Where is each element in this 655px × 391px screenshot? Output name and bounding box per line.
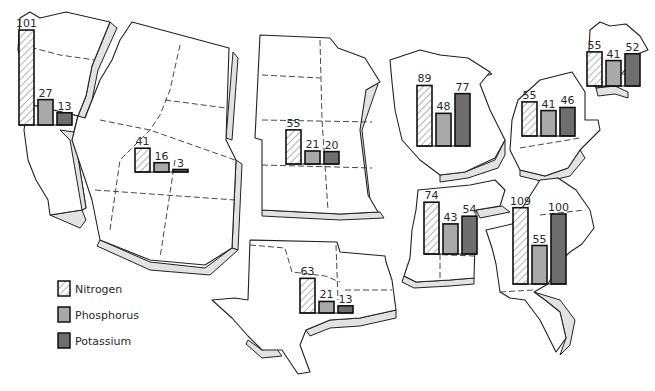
potassium-bar	[338, 306, 353, 313]
potassium-bar	[455, 94, 470, 146]
legend-label: Phosphorus	[75, 309, 139, 322]
phosphorus-bar	[38, 100, 53, 125]
potassium-bar	[462, 216, 477, 254]
nitrogen-bar	[417, 85, 432, 146]
phosphorus-value-label: 21	[320, 288, 334, 301]
nitrogen-bar	[286, 130, 301, 164]
nitrogen-bar	[300, 278, 315, 313]
potassium-value-label: 13	[339, 293, 353, 306]
phosphorus-value-label: 21	[306, 138, 320, 151]
nitrogen-bar	[522, 102, 537, 136]
potassium-value-label: 46	[561, 94, 575, 107]
phosphorus-swatch	[58, 307, 70, 322]
potassium-swatch	[58, 333, 70, 348]
phosphorus-bar	[305, 151, 320, 164]
phosphorus-bar	[541, 111, 556, 136]
legend-label: Nitrogen	[75, 283, 122, 296]
phosphorus-bar	[154, 163, 169, 172]
phosphorus-value-label: 48	[437, 100, 451, 113]
phosphorus-bar	[532, 246, 547, 285]
potassium-value-label: 52	[626, 41, 640, 54]
phosphorus-value-label: 27	[39, 87, 53, 100]
nitrogen-value-label: 41	[136, 135, 150, 148]
nitrogen-bar	[424, 202, 439, 254]
legend-item-phosphorus: Phosphorus	[58, 307, 139, 322]
legend: Nitrogen Phosphorus Potassium	[58, 281, 139, 348]
phosphorus-value-label: 16	[155, 150, 169, 163]
nitrogen-value-label: 101	[16, 17, 37, 30]
phosphorus-bar	[606, 61, 621, 86]
potassium-bar	[57, 113, 72, 125]
nitrogen-bar	[135, 148, 150, 172]
potassium-bar	[625, 54, 640, 86]
nitrogen-bar	[19, 30, 34, 125]
nitrogen-value-label: 74	[425, 189, 439, 202]
nitrogen-value-label: 109	[510, 195, 531, 208]
nitrogen-value-label: 89	[418, 72, 432, 85]
phosphorus-bar	[436, 113, 451, 146]
potassium-value-label: 20	[325, 139, 339, 152]
legend-item-potassium: Potassium	[58, 333, 131, 348]
fertilizer-map-chart: 1012713411635521206321138948775541465541…	[0, 0, 655, 391]
nitrogen-value-label: 55	[588, 39, 602, 52]
map-svg: 1012713411635521206321138948775541465541…	[0, 0, 655, 391]
phosphorus-bar	[319, 301, 334, 313]
potassium-value-label: 100	[548, 201, 569, 214]
phosphorus-value-label: 41	[542, 98, 556, 111]
nitrogen-bar	[587, 52, 602, 86]
phosphorus-bar	[443, 224, 458, 254]
potassium-value-label: 54	[463, 203, 477, 216]
phosphorus-value-label: 41	[607, 48, 621, 61]
legend-label: Potassium	[75, 335, 131, 348]
potassium-value-label: 3	[177, 157, 184, 170]
potassium-bar	[560, 107, 575, 136]
phosphorus-value-label: 55	[533, 233, 547, 246]
nitrogen-value-label: 63	[301, 265, 315, 278]
nitrogen-value-label: 55	[287, 117, 301, 130]
region-northern-plains	[255, 35, 384, 220]
potassium-bar	[551, 214, 566, 284]
legend-item-nitrogen: Nitrogen	[58, 281, 122, 296]
nitrogen-value-label: 55	[523, 89, 537, 102]
potassium-bar	[324, 152, 339, 164]
nitrogen-bar	[513, 208, 528, 284]
nitrogen-swatch	[58, 281, 70, 296]
potassium-value-label: 13	[58, 100, 72, 113]
potassium-value-label: 77	[456, 81, 470, 94]
phosphorus-value-label: 43	[444, 211, 458, 224]
